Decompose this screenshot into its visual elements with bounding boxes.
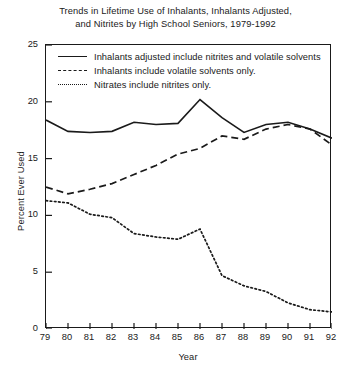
data-series-group [46, 100, 332, 312]
legend-item-label: Nitrates include nitrites only. [94, 80, 211, 90]
x-tick-label-80: 80 [55, 332, 79, 342]
x-axis-title: Year [45, 352, 331, 362]
x-tick-label-82: 82 [99, 332, 123, 342]
x-tick-label-85: 85 [165, 332, 189, 342]
series-line-dotted [46, 201, 332, 312]
chart-title-line-2: and Nitrites by High School Seniors, 197… [0, 18, 351, 31]
x-tick-label-87: 87 [209, 332, 233, 342]
legend-item-dotted: Nitrates include nitrites only. [58, 78, 328, 92]
chart-title-line-1: Trends in Lifetime Use of Inhalants, Inh… [0, 5, 351, 18]
legend-item-label: Inhalants include volatile solvents only… [94, 66, 256, 76]
x-tick-label-88: 88 [231, 332, 255, 342]
y-axis-title: Percent Ever Used [16, 126, 26, 256]
legend-line-sample-dotted-icon [58, 80, 87, 90]
legend-item-dashed: Inhalants include volatile solvents only… [58, 64, 328, 78]
y-tick-label-5: 5 [8, 266, 38, 276]
series-line-dashed [46, 125, 332, 194]
x-tick-label-92: 92 [319, 332, 343, 342]
x-tick-label-91: 91 [297, 332, 321, 342]
legend-item-label: Inhalants adjusted include nitrites and … [94, 52, 321, 62]
y-tick-label-25: 25 [8, 39, 38, 49]
chart-title: Trends in Lifetime Use of Inhalants, Inh… [0, 5, 351, 31]
x-axis-ticks [46, 323, 332, 329]
chart-legend: Inhalants adjusted include nitrites and … [58, 50, 328, 92]
x-tick-label-90: 90 [275, 332, 299, 342]
y-tick-label-20: 20 [8, 96, 38, 106]
x-tick-label-89: 89 [253, 332, 277, 342]
series-line-solid [46, 100, 332, 139]
x-tick-label-83: 83 [121, 332, 145, 342]
x-tick-label-86: 86 [187, 332, 211, 342]
x-tick-label-81: 81 [77, 332, 101, 342]
legend-line-sample-solid-icon [58, 52, 87, 62]
x-tick-label-79: 79 [33, 332, 57, 342]
legend-item-solid: Inhalants adjusted include nitrites and … [58, 50, 328, 64]
legend-line-sample-dashed-icon [58, 66, 87, 76]
x-tick-label-84: 84 [143, 332, 167, 342]
